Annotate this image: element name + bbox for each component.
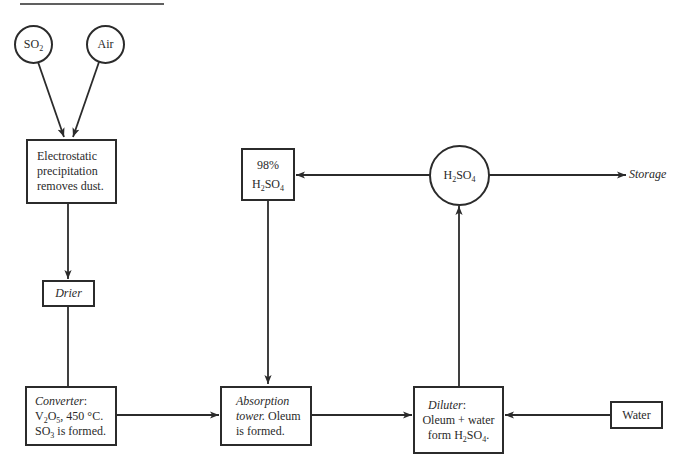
absorption-title: Absorption xyxy=(236,394,289,409)
node-so2: SO2 xyxy=(14,25,53,64)
converter-catalyst: V2O5, 450 °C. xyxy=(35,409,103,424)
node-air: Air xyxy=(86,25,125,64)
diluter-line-3: form H2SO4. xyxy=(428,428,489,443)
arrow-air-to-electrostatic xyxy=(73,62,99,137)
drier-label: Drier xyxy=(55,286,82,301)
node-water: Water xyxy=(610,401,663,429)
node-electrostatic-precipitation: Electrostatic precipitation removes dust… xyxy=(26,139,117,204)
absorption-line-3: is formed. xyxy=(236,424,285,439)
diluter-line-2: Oleum + water xyxy=(422,413,494,428)
node-diluter: Diluter: Oleum + water form H2SO4. xyxy=(413,386,504,454)
node-drier: Drier xyxy=(42,280,95,307)
converter-result: SO3 is formed. xyxy=(35,424,106,439)
water-label: Water xyxy=(622,408,650,423)
h2so4-98-concentration: 98% xyxy=(257,156,279,175)
air-label: Air xyxy=(98,37,114,52)
node-absorption-tower: Absorption tower. Oleum is formed. xyxy=(220,386,312,446)
h2so4-hub-label: H2SO4 xyxy=(443,168,475,183)
electrostatic-line-1: Electrostatic xyxy=(37,149,97,164)
absorption-line-2: tower. Oleum xyxy=(236,409,301,424)
converter-title: Converter: xyxy=(35,394,87,409)
node-h2so4-hub: H2SO4 xyxy=(429,145,490,206)
h2so4-98-formula: H2SO4 xyxy=(252,175,284,194)
electrostatic-line-3: removes dust. xyxy=(37,179,104,194)
arrow-so2-to-electrostatic xyxy=(38,62,64,137)
diluter-title: Diluter: xyxy=(415,398,466,413)
node-98pct-h2so4: 98% H2SO4 xyxy=(241,148,295,201)
electrostatic-line-2: precipitation xyxy=(37,164,98,179)
node-converter: Converter: V2O5, 450 °C. SO3 is formed. xyxy=(25,386,117,446)
so2-label: SO2 xyxy=(24,37,43,52)
storage-label: Storage xyxy=(629,167,666,182)
